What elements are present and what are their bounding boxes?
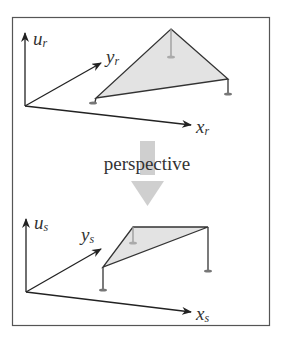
perspective-transition: perspective (104, 141, 191, 206)
bottom-right-base (204, 269, 212, 272)
bottom-shaded-triangle (103, 227, 208, 267)
top-x-label: xr (195, 116, 209, 138)
top-y-label: yr (104, 46, 119, 68)
bottom-u-label: us (34, 212, 49, 234)
top-scene: ur yr xr (25, 28, 232, 138)
perspective-diagram: ur yr xr perspective us ys xs (0, 0, 281, 337)
bottom-left-base (99, 288, 107, 291)
top-y-axis (25, 63, 101, 106)
bottom-x-axis (26, 292, 191, 312)
caption-perspective: perspective (104, 153, 191, 174)
bottom-inner-base (129, 241, 137, 244)
top-x-axis (25, 106, 191, 125)
bottom-y-axis (26, 249, 101, 292)
transition-arrow-head (131, 181, 164, 206)
top-u-label: ur (33, 28, 48, 50)
top-left-base (89, 101, 97, 104)
bottom-y-label: ys (79, 224, 94, 246)
top-inner-base (167, 55, 175, 58)
bottom-x-label: xs (195, 303, 209, 325)
bottom-scene: us ys xs (26, 212, 212, 325)
top-right-base (224, 92, 232, 95)
